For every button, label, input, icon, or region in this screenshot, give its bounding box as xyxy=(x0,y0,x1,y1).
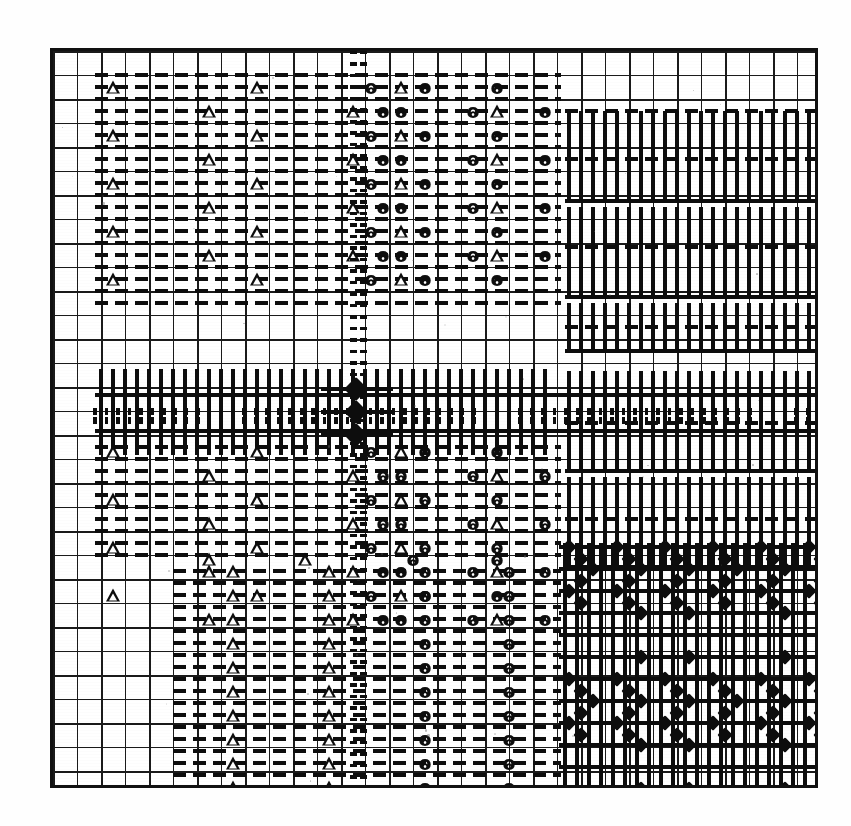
triangle-marker xyxy=(250,225,264,238)
triangle-marker xyxy=(394,225,408,238)
band-tick xyxy=(147,369,150,455)
diamond-field-vline xyxy=(575,543,578,788)
dashed-rule-top xyxy=(95,289,561,292)
diamond-field-vline xyxy=(815,543,818,788)
triangle-marker xyxy=(250,273,264,286)
triangle-marker xyxy=(250,445,264,458)
diamond-row-rule xyxy=(559,787,818,788)
vertical-bar xyxy=(687,111,690,201)
triangle-marker xyxy=(322,757,336,770)
vee-marker: ⱺ xyxy=(490,552,505,567)
vertical-bar xyxy=(699,207,702,297)
vee-marker: ⱺ xyxy=(364,540,379,555)
triangle-marker xyxy=(490,249,504,262)
vertical-bar xyxy=(759,111,762,201)
vee-marker: ⱺ xyxy=(376,200,391,215)
diamond-marker xyxy=(813,573,818,589)
band-tick xyxy=(771,371,774,453)
vee-marker: ⱺ xyxy=(418,708,433,723)
vee-marker: ⱺ xyxy=(466,468,481,483)
vertical-bar xyxy=(711,207,714,297)
vertical-bar xyxy=(591,111,594,201)
bar-field-dash xyxy=(565,157,818,160)
diamond-field-vline xyxy=(791,543,794,788)
triangle-marker xyxy=(106,445,120,458)
vee-marker: ⱺ xyxy=(376,468,391,483)
diamond-field-vline xyxy=(707,543,710,788)
triangle-marker xyxy=(346,565,360,578)
vertical-bar xyxy=(591,477,594,567)
triangle-marker xyxy=(322,685,336,698)
diamond-field-vline xyxy=(779,543,782,788)
triangle-marker xyxy=(346,469,360,482)
band-tick xyxy=(435,369,438,455)
diamond-marker xyxy=(813,727,818,743)
vee-marker: ⱺ xyxy=(502,732,517,747)
triangle-marker xyxy=(490,153,504,166)
triangle-marker xyxy=(322,661,336,674)
dashed-rule-top xyxy=(95,193,561,196)
band-tick xyxy=(687,371,690,453)
vee-marker: ⱺ xyxy=(466,248,481,263)
vee-marker: ⱺ xyxy=(418,780,433,789)
vee-marker: ⱺ xyxy=(418,80,433,95)
triangle-marker xyxy=(106,225,120,238)
dashed-rule-top xyxy=(95,301,561,304)
band-tick xyxy=(99,369,102,455)
figure-page: ⱺⱺⱺⱺⱺⱺⱺⱺⱺⱺⱺⱺⱺⱺⱺⱺⱺⱺⱺⱺⱺⱺⱺⱺⱺⱺⱺⱺⱺⱺⱺⱺⱺⱺⱺⱺⱺⱺⱺⱺ… xyxy=(0,0,851,826)
plot-frame: ⱺⱺⱺⱺⱺⱺⱺⱺⱺⱺⱺⱺⱺⱺⱺⱺⱺⱺⱺⱺⱺⱺⱺⱺⱺⱺⱺⱺⱺⱺⱺⱺⱺⱺⱺⱺⱺⱺⱺⱺ… xyxy=(50,48,818,788)
diamond-field-vline xyxy=(683,543,686,788)
vertical-bar xyxy=(795,111,798,201)
dashed-rule-mid xyxy=(95,481,561,484)
vertical-bar xyxy=(795,207,798,297)
band-tick xyxy=(255,369,258,455)
band-tick xyxy=(315,369,318,455)
diamond-field-vline xyxy=(719,543,722,788)
vertical-bar xyxy=(615,111,618,201)
vee-marker: ⱺ xyxy=(538,564,553,579)
band-tick xyxy=(291,369,294,455)
triangle-marker xyxy=(250,177,264,190)
vee-marker: ⱺ xyxy=(466,516,481,531)
diamond-field-vline xyxy=(695,543,698,788)
bar-field-dash xyxy=(565,325,818,328)
band-tick xyxy=(627,371,630,453)
diamond-field-vline xyxy=(803,543,806,788)
triangle-marker xyxy=(202,105,216,118)
band-tick xyxy=(459,369,462,455)
triangle-marker xyxy=(202,553,216,566)
centre-diamond-rule xyxy=(321,387,393,390)
band-tick xyxy=(675,371,678,453)
dashed-rule-low xyxy=(173,785,561,788)
triangle-marker xyxy=(250,493,264,506)
vee-marker: ⱺ xyxy=(376,564,391,579)
vee-marker: ⱺ xyxy=(376,612,391,627)
vertical-bar xyxy=(771,207,774,297)
vee-marker: ⱺ xyxy=(418,636,433,651)
vertical-bar xyxy=(603,477,606,567)
vee-marker: ⱺ xyxy=(394,152,409,167)
vertical-bar xyxy=(807,111,810,201)
band-tick xyxy=(519,369,522,455)
triangle-marker xyxy=(250,541,264,554)
diamond-field-vline xyxy=(755,543,758,788)
triangle-marker xyxy=(394,177,408,190)
triangle-marker xyxy=(346,517,360,530)
vee-marker: ⱺ xyxy=(466,104,481,119)
triangle-marker xyxy=(106,273,120,286)
vertical-bar xyxy=(783,207,786,297)
vee-marker: ⱺ xyxy=(376,104,391,119)
diamond-field-vline xyxy=(671,543,674,788)
vertical-bar xyxy=(747,477,750,567)
band-tick xyxy=(183,369,186,455)
vertical-bar xyxy=(627,111,630,201)
band-tick xyxy=(195,369,198,455)
vee-marker: ⱺ xyxy=(418,224,433,239)
vertical-bar xyxy=(687,477,690,567)
vertical-bar xyxy=(795,477,798,567)
vertical-bar xyxy=(663,111,666,201)
band-tick xyxy=(807,371,810,453)
vee-marker: ⱺ xyxy=(364,588,379,603)
vee-marker: ⱺ xyxy=(394,612,409,627)
vee-marker: ⱺ xyxy=(418,492,433,507)
